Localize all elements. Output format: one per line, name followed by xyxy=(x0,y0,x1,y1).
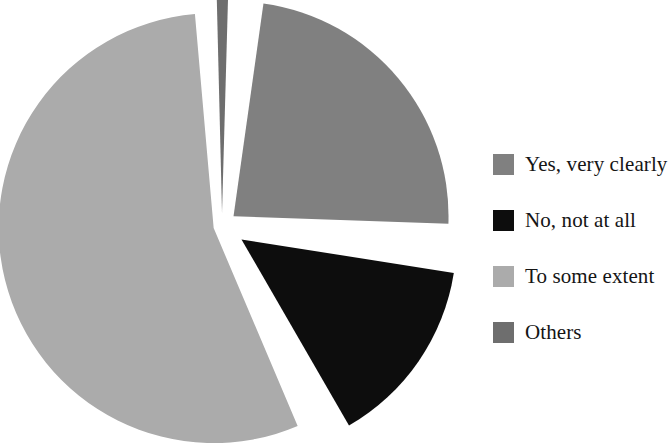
legend-label-no-not-at-all: No, not at all xyxy=(525,208,636,232)
legend-label-others: Others xyxy=(525,320,582,344)
legend-swatch-icon-yes-very-clearly xyxy=(493,154,514,175)
legend-item-to-some-extent[interactable]: To some extent xyxy=(493,248,670,304)
pie-slice-yes-very-clearly[interactable] xyxy=(234,3,449,223)
pie-slice-group xyxy=(0,0,454,443)
legend-swatch-icon-to-some-extent xyxy=(493,266,514,287)
legend-item-others[interactable]: Others xyxy=(493,304,670,360)
legend-swatch-icon-no-not-at-all xyxy=(493,210,514,231)
legend-label-to-some-extent: To some extent xyxy=(525,264,654,288)
legend-item-yes-very-clearly[interactable]: Yes, very clearly xyxy=(493,136,670,192)
pie-chart-figure: Yes, very clearly No, not at all To some… xyxy=(0,0,670,444)
legend-item-no-not-at-all[interactable]: No, not at all xyxy=(493,192,670,248)
legend-swatch-icon-others xyxy=(493,322,514,343)
pie-slice-others[interactable] xyxy=(217,0,228,213)
chart-legend: Yes, very clearly No, not at all To some… xyxy=(493,136,670,360)
legend-label-yes-very-clearly: Yes, very clearly xyxy=(525,152,667,176)
pie-chart-plot-area xyxy=(0,0,470,444)
pie-chart-svg xyxy=(0,0,470,444)
